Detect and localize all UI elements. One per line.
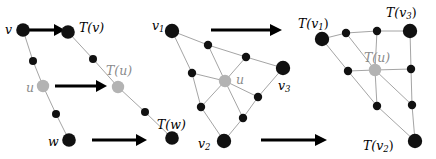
- node-Tv2[interactable]: [408, 134, 422, 148]
- node-v2[interactable]: [217, 134, 231, 148]
- node-Tu[interactable]: [112, 81, 124, 93]
- node-rmid-1[interactable]: [342, 29, 350, 37]
- arrow-mesh-top: [211, 24, 282, 36]
- node-Tv[interactable]: [61, 25, 75, 39]
- edge-rm3-rm5: [348, 71, 377, 106]
- node-rmid-3[interactable]: [344, 67, 352, 75]
- right-panel-nodes: [315, 24, 422, 148]
- node-mid-3[interactable]: [188, 69, 196, 77]
- arrow-u-to-Tu: [55, 80, 107, 92]
- label-v1: v1: [152, 18, 164, 34]
- label-u: u: [26, 80, 34, 95]
- label-Tv3: T(v3): [386, 5, 417, 21]
- label-v: v: [5, 22, 12, 37]
- node-Tw[interactable]: [165, 131, 179, 145]
- node-rmid-2[interactable]: [373, 27, 381, 35]
- node-mid-u-w[interactable]: [52, 110, 60, 118]
- edge-m1-m2: [208, 45, 246, 57]
- edge-rm4-rm6: [411, 69, 412, 105]
- node-mid-Tv-Tu[interactable]: [89, 55, 97, 63]
- label-Tu: T(u): [106, 63, 132, 78]
- node-rmid-6[interactable]: [408, 101, 416, 109]
- label-u-center: u: [236, 72, 244, 87]
- node-w[interactable]: [62, 133, 76, 147]
- node-u[interactable]: [37, 80, 49, 92]
- node-v1[interactable]: [165, 24, 179, 38]
- node-mid-6[interactable]: [239, 114, 247, 122]
- right-panel-edges: [322, 31, 415, 141]
- label-v3: v3: [278, 78, 290, 94]
- node-v3[interactable]: [276, 61, 290, 75]
- node-Tv3[interactable]: [403, 24, 417, 38]
- node-Tu-center[interactable]: [369, 64, 381, 76]
- arrow-w-to-Tw: [92, 134, 147, 146]
- label-Tv: T(v): [79, 20, 104, 35]
- arrow-head: [315, 134, 327, 146]
- node-rmid-4[interactable]: [407, 65, 415, 73]
- figure-container: v u w T(v) T(u) T(w) v1 v3 v2 u T(v1) T(…: [0, 0, 436, 159]
- label-Tw: T(w): [157, 117, 186, 132]
- arrow-head: [136, 134, 147, 146]
- node-mid-1[interactable]: [204, 41, 212, 49]
- label-v2: v2: [198, 136, 210, 152]
- edge-rm6-Tu: [375, 70, 412, 105]
- arrow-head: [270, 24, 282, 36]
- edge-rm5-Tv2: [377, 106, 415, 141]
- arrow-head: [96, 80, 107, 92]
- edge-rm1-rm2: [346, 31, 377, 33]
- node-mid-4[interactable]: [254, 93, 262, 101]
- label-Tv2: T(v2): [363, 138, 394, 154]
- arrow-v-to-Tv: [28, 24, 65, 36]
- mesh-subdivision-diagram: v u w T(v) T(u) T(w) v1 v3 v2 u T(v1) T(…: [0, 0, 436, 159]
- arrow-mesh-bottom: [261, 134, 327, 146]
- node-mid-5[interactable]: [197, 103, 205, 111]
- label-w: w: [48, 134, 59, 149]
- edge-m3-m5: [192, 73, 201, 107]
- node-mid-2[interactable]: [242, 53, 250, 61]
- node-Tv1[interactable]: [315, 32, 329, 46]
- label-Tv1: T(v1): [298, 16, 329, 32]
- node-rmid-5[interactable]: [373, 102, 381, 110]
- node-mid-Tu-Tw[interactable]: [141, 108, 149, 116]
- node-u-center[interactable]: [219, 75, 231, 87]
- node-v[interactable]: [16, 23, 30, 37]
- node-mid-v-u[interactable]: [29, 57, 37, 65]
- label-Tu-center: T(u): [364, 50, 390, 65]
